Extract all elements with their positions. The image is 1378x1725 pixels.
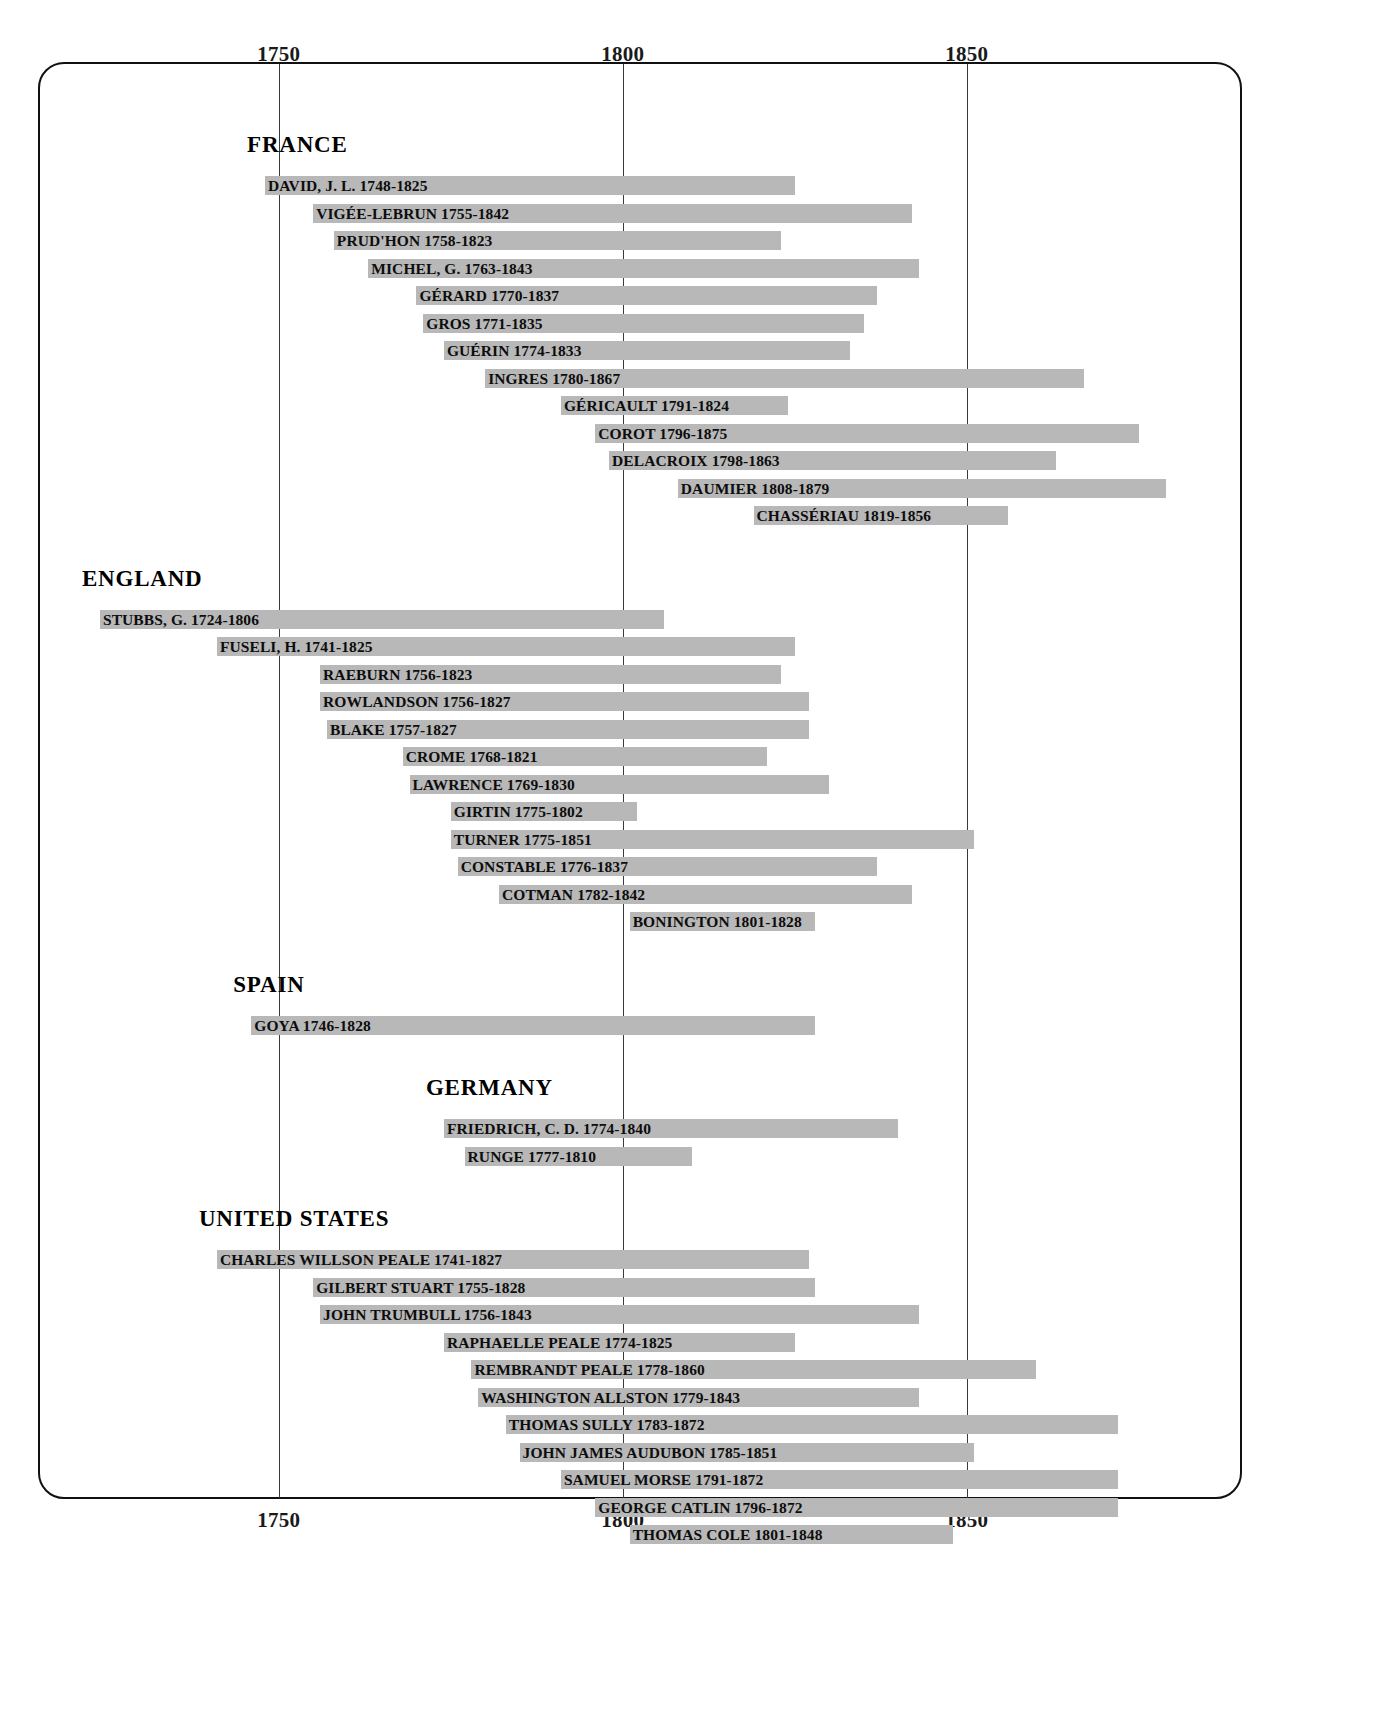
lifespan-bar-label: CHASSÉRIAU 1819-1856 (757, 506, 932, 525)
lifespan-bar-label: STUBBS, G. 1724-1806 (103, 610, 259, 629)
group-title-england: ENGLAND (82, 566, 203, 592)
lifespan-bar-label: THOMAS SULLY 1783-1872 (509, 1415, 705, 1434)
timeline-chart: 175018001850 175018001850 FRANCEDAVID, J… (0, 0, 1378, 1725)
lifespan-bar-label: PRUD'HON 1758-1823 (337, 231, 493, 250)
lifespan-bar-label: DAVID, J. L. 1748-1825 (268, 176, 428, 195)
lifespan-bar-label: REMBRANDT PEALE 1778-1860 (474, 1360, 704, 1379)
lifespan-bar-label: GOYA 1746-1828 (254, 1016, 371, 1035)
lifespan-bar-label: JOHN JAMES AUDUBON 1785-1851 (523, 1443, 778, 1462)
lifespan-bar-label: DAUMIER 1808-1879 (681, 479, 830, 498)
lifespan-bar-label: CHARLES WILLSON PEALE 1741-1827 (220, 1250, 502, 1269)
lifespan-bar-label: GILBERT STUART 1755-1828 (316, 1278, 525, 1297)
lifespan-bar-label: SAMUEL MORSE 1791-1872 (564, 1470, 763, 1489)
lifespan-bar-label: GEORGE CATLIN 1796-1872 (598, 1498, 802, 1517)
group-title-france: FRANCE (247, 132, 348, 158)
lifespan-bar-label: THOMAS COLE 1801-1848 (633, 1525, 823, 1544)
lifespan-bar-label: BONINGTON 1801-1828 (633, 912, 802, 931)
lifespan-bar-label: RAEBURN 1756-1823 (323, 665, 472, 684)
plot-area: FRANCEDAVID, J. L. 1748-1825VIGÉE-LEBRUN… (0, 0, 1378, 1725)
lifespan-bar-label: DELACROIX 1798-1863 (612, 451, 780, 470)
lifespan-bar-label: INGRES 1780-1867 (488, 369, 620, 388)
lifespan-bar-label: GÉRARD 1770-1837 (419, 286, 559, 305)
lifespan-bar-label: JOHN TRUMBULL 1756-1843 (323, 1305, 532, 1324)
lifespan-bar-label: CROME 1768-1821 (406, 747, 538, 766)
lifespan-bar-label: BLAKE 1757-1827 (330, 720, 457, 739)
lifespan-bar-label: MICHEL, G. 1763-1843 (371, 259, 532, 278)
lifespan-bar-label: WASHINGTON ALLSTON 1779-1843 (481, 1388, 740, 1407)
lifespan-bar-label: LAWRENCE 1769-1830 (413, 775, 575, 794)
lifespan-bar-label: COROT 1796-1875 (598, 424, 727, 443)
lifespan-bar-label: CONSTABLE 1776-1837 (461, 857, 628, 876)
lifespan-bar-label: FRIEDRICH, C. D. 1774-1840 (447, 1119, 651, 1138)
lifespan-bar-label: GUÉRIN 1774-1833 (447, 341, 582, 360)
lifespan-bar-label: TURNER 1775-1851 (454, 830, 592, 849)
group-title-spain: SPAIN (233, 972, 304, 998)
lifespan-bar-label: ROWLANDSON 1756-1827 (323, 692, 511, 711)
group-title-germany: GERMANY (426, 1075, 553, 1101)
lifespan-bar-label: COTMAN 1782-1842 (502, 885, 645, 904)
lifespan-bar-label: GROS 1771-1835 (426, 314, 542, 333)
lifespan-bar-label: GIRTIN 1775-1802 (454, 802, 583, 821)
lifespan-bar-label: GÉRICAULT 1791-1824 (564, 396, 729, 415)
lifespan-bar-label: RUNGE 1777-1810 (468, 1147, 597, 1166)
lifespan-bar-label: VIGÉE-LEBRUN 1755-1842 (316, 204, 509, 223)
lifespan-bar-label: RAPHAELLE PEALE 1774-1825 (447, 1333, 673, 1352)
lifespan-bar-label: FUSELI, H. 1741-1825 (220, 637, 373, 656)
group-title-united-states: UNITED STATES (199, 1206, 389, 1232)
